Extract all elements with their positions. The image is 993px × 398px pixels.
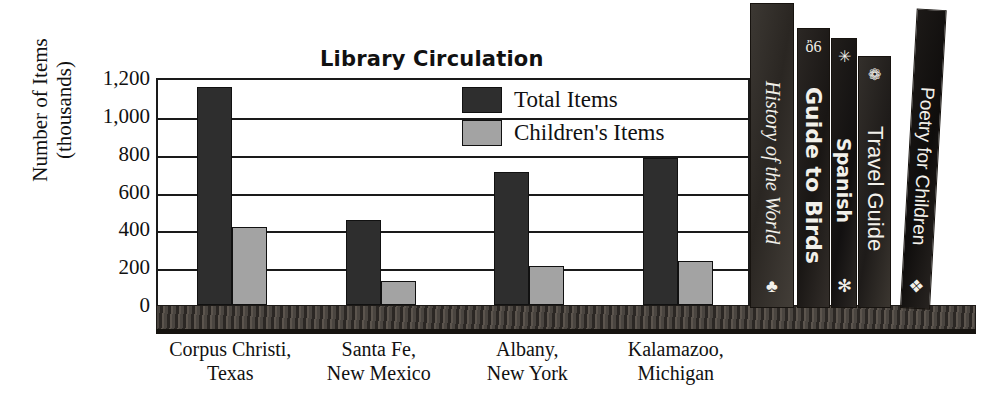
legend-swatch-total-items	[462, 87, 502, 113]
legend-item-total: Total Items	[462, 87, 664, 113]
x-axis-category-label: Corpus Christi,Texas	[169, 338, 291, 385]
y-axis-tick-label: 800	[119, 141, 151, 166]
bar-childrens-items	[529, 266, 564, 305]
x-axis-label-line: Albany,	[487, 338, 568, 362]
book-ornament-icon: ✳	[838, 49, 851, 65]
y-axis-title-line1: Number of Items	[29, 38, 53, 181]
legend: Total Items Children's Items	[462, 87, 664, 153]
x-axis-label-line: Texas	[169, 362, 291, 386]
y-axis-tick-label: 400	[119, 217, 151, 242]
book-ornament-icon: ❁	[868, 67, 881, 83]
book-ornament-icon: ❖	[908, 277, 925, 296]
x-axis-category-label: Kalamazoo,Michigan	[628, 338, 724, 385]
legend-item-children: Children's Items	[462, 120, 664, 146]
x-axis-label-line: New Mexico	[327, 362, 431, 386]
bar-childrens-items	[678, 261, 713, 305]
bookshelf-shadow	[156, 329, 976, 334]
bar-group	[176, 80, 289, 305]
book-spine: ὂ6Guide to Birds	[797, 28, 830, 308]
bar-total-items	[346, 220, 381, 305]
book-spine: History of the World♣	[750, 3, 794, 308]
x-axis-label-line: Michigan	[628, 362, 724, 386]
x-axis-label-line: Kalamazoo,	[628, 338, 724, 362]
bar-childrens-items	[232, 227, 267, 305]
x-axis-label-line: New York	[487, 362, 568, 386]
x-axis-category-label: Albany,New York	[487, 338, 568, 385]
legend-label-total-items: Total Items	[514, 87, 618, 113]
book-title-text: History of the World	[761, 81, 784, 244]
y-axis-tick-labels: 02004006008001,0001,200	[58, 78, 150, 306]
book-title-text: Travel Guide	[862, 126, 888, 251]
x-axis-label-line: Santa Fe,	[327, 338, 431, 362]
y-axis-tick-label: 200	[119, 255, 151, 280]
x-axis-category-label: Santa Fe,New Mexico	[327, 338, 431, 385]
book-spine: ❁Travel Guide	[858, 56, 891, 308]
book-spine: ✳Spanish✻	[831, 38, 857, 308]
bar-total-items	[197, 87, 232, 305]
book-ornament-icon: ♣	[766, 277, 778, 295]
book-title-text: Poetry for Children	[908, 86, 939, 245]
bar-total-items	[494, 172, 529, 305]
bar-childrens-items	[381, 281, 416, 305]
x-axis-category-labels: Corpus Christi,TexasSanta Fe,New MexicoA…	[156, 338, 750, 394]
book-ornament-icon: ὂ6	[806, 39, 822, 55]
book-title-text: Guide to Birds	[801, 87, 826, 264]
book-illustration-group: History of the World♣ὂ6Guide to Birds✳Sp…	[745, 0, 993, 308]
bookshelf-board	[156, 305, 976, 331]
book-ornament-icon: ✻	[837, 277, 852, 295]
book-title-text: Spanish	[833, 138, 855, 223]
x-axis-label-line: Corpus Christi,	[169, 338, 291, 362]
bar-group	[325, 80, 438, 305]
bar-total-items	[643, 158, 678, 305]
y-axis-tick-label: 1,200	[103, 66, 150, 91]
chart-figure: Number of Items (thousands) 020040060080…	[0, 0, 993, 398]
chart-title: Library Circulation	[320, 47, 544, 71]
y-axis-tick-label: 1,000	[103, 103, 150, 128]
legend-swatch-childrens-items	[462, 120, 502, 146]
y-axis-tick-label: 0	[140, 293, 151, 318]
book-spine: Poetry for Children❖	[900, 8, 947, 309]
y-axis-tick-label: 600	[119, 179, 151, 204]
legend-label-childrens-items: Children's Items	[514, 120, 664, 146]
